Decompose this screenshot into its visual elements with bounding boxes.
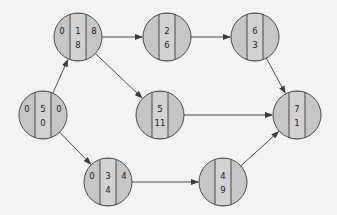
node-bottom-value: 0	[40, 118, 45, 128]
node-D: 63	[231, 13, 279, 61]
node-center-strip	[247, 13, 263, 61]
edge-arrow-A-G	[60, 132, 91, 164]
node-bottom-value: 4	[105, 185, 110, 195]
node-center-strip	[215, 158, 231, 206]
node-E: 511	[136, 91, 184, 139]
network-diagram: 50001808266351171340449	[0, 0, 337, 215]
node-H: 49	[199, 158, 247, 206]
node-top-value: 1	[75, 26, 80, 36]
node-bottom-value: 8	[75, 40, 80, 50]
node-A: 5000	[19, 91, 67, 139]
node-bottom-value: 6	[164, 40, 169, 50]
node-center-strip	[289, 91, 305, 139]
edge-arrow-A-B	[53, 60, 68, 93]
node-right-value: 0	[56, 104, 61, 114]
node-top-value: 7	[294, 104, 299, 114]
node-center-strip	[159, 13, 175, 61]
node-B: 1808	[54, 13, 102, 61]
node-center-strip	[100, 158, 116, 206]
node-center-strip	[152, 91, 168, 139]
node-top-value: 2	[164, 26, 169, 36]
node-bottom-value: 11	[155, 118, 166, 128]
node-C: 26	[143, 13, 191, 61]
diagram-svg: 50001808266351171340449	[0, 0, 337, 215]
node-left-value: 0	[24, 104, 29, 114]
node-top-value: 6	[252, 26, 257, 36]
node-top-value: 5	[157, 104, 162, 114]
node-top-value: 5	[40, 104, 45, 114]
node-G: 3404	[84, 158, 132, 206]
node-bottom-value: 9	[220, 185, 225, 195]
node-left-value: 0	[89, 171, 94, 181]
node-right-value: 4	[121, 171, 126, 181]
node-bottom-value: 3	[252, 40, 257, 50]
node-center-strip	[35, 91, 51, 139]
nodes-layer: 50001808266351171340449	[19, 13, 321, 206]
node-top-value: 3	[105, 171, 110, 181]
edge-arrow-D-F	[266, 58, 285, 93]
node-center-strip	[70, 13, 86, 61]
node-right-value: 8	[91, 26, 96, 36]
edge-arrow-B-E	[95, 54, 141, 98]
node-left-value: 0	[59, 26, 64, 36]
node-bottom-value: 1	[294, 118, 299, 128]
node-top-value: 4	[220, 171, 225, 181]
edge-arrow-H-F	[241, 132, 279, 166]
node-F: 71	[273, 91, 321, 139]
